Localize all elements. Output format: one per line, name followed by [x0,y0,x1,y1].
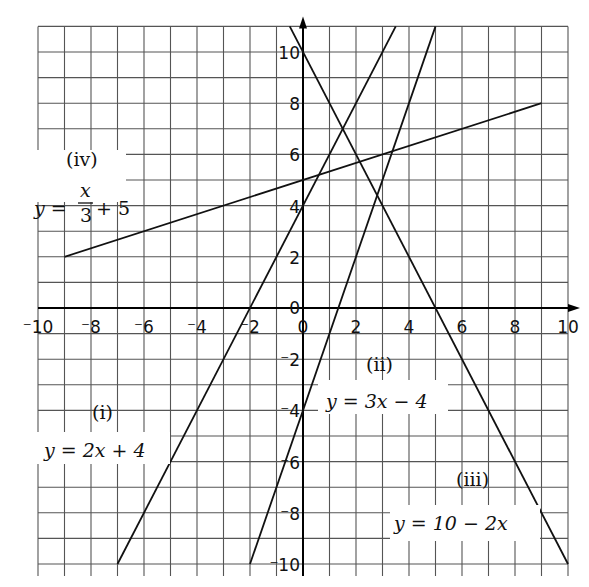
svg-text:⁻4: ⁻4 [187,317,207,337]
svg-text:⁻8: ⁻8 [280,504,300,524]
label-ii-tag: (ii) [366,353,393,375]
label-iii-eq: y = 10 − 2x [393,512,508,534]
svg-text:4: 4 [289,197,300,217]
label-iv-num: x [80,179,91,201]
svg-text:⁻6: ⁻6 [134,317,154,337]
svg-text:0: 0 [298,317,309,337]
series-lines [65,26,569,564]
svg-text:⁻2: ⁻2 [240,317,260,337]
axes [38,16,580,576]
svg-text:8: 8 [289,94,300,114]
svg-text:⁻8: ⁻8 [81,317,101,337]
svg-text:8: 8 [510,317,521,337]
svg-text:10: 10 [557,317,579,337]
label-iv-rhs: + 5 [96,197,130,219]
label-iv-lhs: y = [33,197,67,219]
svg-text:6: 6 [289,145,300,165]
svg-text:⁻6: ⁻6 [280,453,300,473]
svg-text:⁻4: ⁻4 [280,401,300,421]
label-i-tag: (i) [92,401,113,423]
label-ii-eq: y = 3x − 4 [325,390,428,412]
label-iv-den: 3 [80,204,92,226]
svg-text:10: 10 [278,43,300,63]
svg-text:0: 0 [289,298,300,318]
chart: ⁻10⁻8⁻6⁻4⁻202468101086420⁻2⁻4⁻6⁻8⁻10 (iv… [0,0,589,587]
svg-text:4: 4 [404,317,415,337]
svg-text:⁻2: ⁻2 [280,350,300,370]
label-iii-tag: (iii) [456,468,489,490]
svg-text:2: 2 [351,317,362,337]
label-iv-tag: (iv) [66,148,98,170]
svg-text:⁻10: ⁻10 [269,555,300,575]
svg-text:6: 6 [457,317,468,337]
label-i-eq: y = 2x + 4 [43,439,146,461]
svg-text:2: 2 [289,248,300,268]
svg-text:⁻10: ⁻10 [23,317,54,337]
